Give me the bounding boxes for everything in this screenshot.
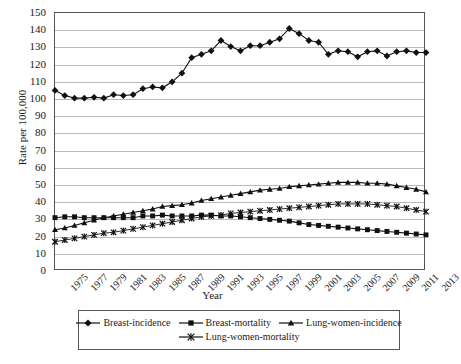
series-lung-women-mortality [52,201,428,245]
legend-label: Lung-women-incidence [306,318,403,328]
x-axis-tick: 2013 [440,272,461,293]
data-point-diamond [227,43,234,50]
legend-label: Lung-women-mortality [206,332,301,342]
data-point-square [424,232,429,237]
data-point-diamond [257,42,264,49]
y-axis-tick: 90 [35,110,46,121]
data-point-square [316,223,321,228]
plot-area [54,12,425,270]
data-point-square [394,230,399,235]
data-point-square [267,217,272,222]
legend-marker-cross [178,331,204,343]
data-point-diamond [364,48,371,55]
y-axis-tick: 30 [35,213,46,224]
data-point-square [131,215,136,220]
y-axis-tick: 150 [30,7,47,18]
legend-marker-square [178,317,204,329]
data-point-diamond [374,47,381,54]
data-point-diamond [296,30,303,37]
data-point-diamond [247,42,254,49]
y-axis-tick: 70 [35,144,46,155]
data-point-square [170,214,175,219]
legend-label: Breast-incidence [103,318,171,328]
data-point-square [140,214,145,219]
y-axis-tick: 120 [30,58,47,69]
data-point-diamond [120,92,127,99]
y-axis-tick: 40 [35,196,46,207]
data-point-diamond [393,48,400,55]
data-point-diamond [354,53,361,60]
data-point-diamond [130,91,137,98]
data-point-square [345,226,350,231]
data-point-diamond [266,39,273,46]
data-point-square [414,232,419,237]
data-point-square [82,215,87,220]
data-point-diamond [403,47,410,54]
data-point-diamond [85,319,92,326]
data-point-square [277,218,282,223]
data-point-diamond [423,49,430,56]
data-point-square [160,213,165,218]
legend-label: Breast-mortality [206,318,273,328]
y-axis-tick: 20 [35,230,46,241]
data-point-diamond [198,51,205,58]
series-line [55,28,426,98]
legend-item-lung-women-incidence[interactable]: Lung-women-incidence [278,317,403,329]
data-point-diamond [384,53,391,60]
data-point-diamond [52,87,59,94]
data-point-square [375,228,380,233]
y-axis-tick: 140 [30,24,47,35]
data-point-square [365,227,370,232]
y-axis-tick: 60 [35,161,46,172]
data-point-square [404,231,409,236]
data-point-diamond [110,91,117,98]
chart-legend: Breast-incidenceBreast-mortalityLung-wom… [78,310,400,350]
data-point-square [248,215,253,220]
data-point-square [297,220,302,225]
data-point-diamond [149,84,156,91]
y-axis-tick: 100 [30,93,47,104]
y-axis-tick: 110 [30,75,46,86]
series-lung-women-incidence [52,179,429,232]
data-point-square [258,216,263,221]
x-axis-title: Year [0,290,425,301]
legend-marker-diamond [75,317,101,329]
series-breast-incidence [52,25,430,101]
legend-item-breast-incidence[interactable]: Breast-incidence [75,317,171,329]
legend-item-lung-women-mortality[interactable]: Lung-women-mortality [178,331,301,343]
data-point-diamond [61,92,68,99]
data-point-square [326,224,331,229]
legend-row: Lung-women-mortality [178,331,301,343]
data-point-diamond [335,47,342,54]
y-axis-tick-labels: 0102030405060708090100110120130140150 [0,0,50,282]
data-point-square [384,229,389,234]
data-point-diamond [188,54,195,61]
data-point-diamond [81,95,88,102]
data-point-square [150,214,155,219]
data-point-square [287,219,292,224]
data-point-diamond [237,47,244,54]
y-axis-tick: 130 [30,41,47,52]
data-point-square [62,214,67,219]
data-point-diamond [159,84,166,91]
data-point-diamond [413,49,420,56]
y-axis-tick: 80 [35,127,46,138]
data-point-square [306,222,311,227]
y-axis-tick: 50 [35,179,46,190]
data-point-square [336,225,341,230]
data-point-square [188,320,193,325]
legend-marker-triangle [278,317,304,329]
data-point-diamond [139,85,146,92]
legend-item-breast-mortality[interactable]: Breast-mortality [178,317,273,329]
series-layer [55,13,426,271]
y-axis-tick: 10 [35,247,46,258]
data-point-square [53,215,58,220]
data-point-diamond [100,95,107,102]
data-point-diamond [344,48,351,55]
data-point-diamond [71,95,78,102]
data-point-diamond [305,37,312,44]
data-point-square [72,214,77,219]
data-point-square [355,226,360,231]
data-point-diamond [91,94,98,101]
